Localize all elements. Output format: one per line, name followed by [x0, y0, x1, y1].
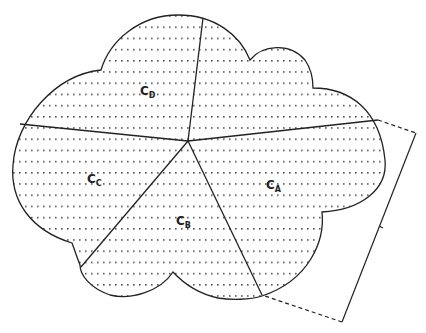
diagram-canvas: CD CC CB CA: [0, 0, 426, 333]
bracket-dashed-top: [378, 120, 416, 133]
bracket-dashed-bottom: [262, 295, 342, 322]
cloud-diagram: CD CC CB CA: [0, 0, 426, 333]
cloud-fill: [0, 0, 426, 333]
